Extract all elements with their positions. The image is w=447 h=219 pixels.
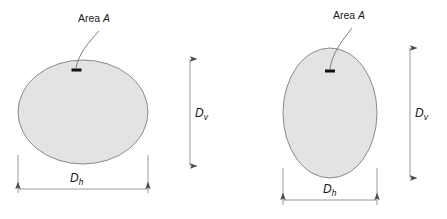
oblate-ellipse-panel: Area A Dv Dh (18, 12, 209, 193)
vertical-dimension-label: Dv (415, 106, 429, 122)
vertical-dimension-label: Dv (195, 106, 209, 122)
horizontal-dimension-label: Dh (323, 182, 337, 198)
prolate-ellipse-panel: Area A Dv Dh (283, 9, 429, 205)
oblate-ellipse (18, 60, 148, 164)
area-label-symbol: A (102, 12, 110, 24)
area-label: Area A (333, 9, 365, 21)
area-label-symbol: A (357, 9, 365, 21)
area-label: Area A (78, 12, 110, 24)
figure-canvas: Area A Dv Dh Area A Dv Dh (0, 0, 447, 219)
two-ellipse-dimension-diagram: Area A Dv Dh Area A Dv Dh (0, 0, 447, 219)
area-tick-mark (325, 70, 335, 73)
area-tick-mark (72, 69, 82, 72)
horizontal-dimension-label: Dh (70, 171, 84, 187)
area-label-text: Area (333, 9, 355, 21)
area-label-text: Area (78, 12, 100, 24)
